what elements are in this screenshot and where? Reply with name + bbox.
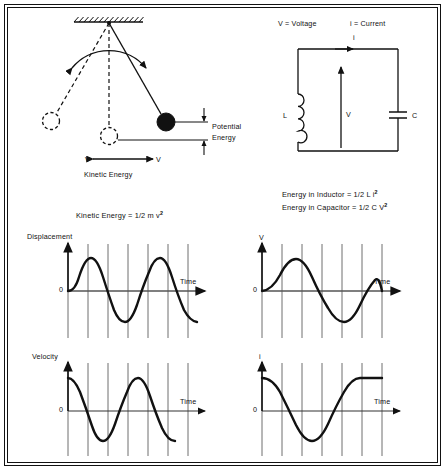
voltage-origin-label: 0 [253,285,257,294]
capacitor-energy-equation: Energy in Capacitor = 1/2 C V2 [282,202,387,212]
legend-current-label: i = Current [350,19,385,28]
capacitor-energy-equation-exponent: 2 [384,202,387,208]
pendulum-bob-left-ghost [43,113,60,130]
pendulum-bob-right-solid [157,113,175,131]
displacement-waveform [68,258,197,322]
current-arrow-label: i [353,33,355,42]
chart-displacement [68,243,205,338]
current-y-axis-label: i [259,352,261,361]
chart-current [262,362,400,456]
displacement-origin-label: 0 [59,285,63,294]
kinetic-energy-equation-text: Kinetic Energy = 1/2 m v [76,211,160,220]
inductor-energy-equation-text: Energy in Inductor = 1/2 L i [282,190,374,199]
pendulum-string-right-solid [109,23,161,114]
velocity-waveform [68,378,175,441]
potential-energy-label-line2: Energy [212,133,236,142]
capacitor-label: C [412,111,417,120]
inductor-energy-equation: Energy in Inductor = 1/2 L i2 [282,189,378,199]
voltage-x-axis-label: Time [374,277,390,286]
velocity-y-axis-label: Velocity [32,352,58,361]
velocity-x-axis-label: Time [180,397,196,406]
inductor-coil-symbol [298,94,307,143]
potential-energy-label-line1: Potential [212,122,241,131]
voltage-y-axis-label: V [259,233,264,242]
pendulum-bob-center-ghost [101,128,118,145]
capacitor-energy-equation-text: Energy in Capacitor = 1/2 C V [282,203,384,212]
pendulum-diagram [43,17,209,159]
voltage-arrow-label: V [346,110,351,119]
current-origin-label: 0 [253,405,257,414]
displacement-y-axis-label: Displacement [27,232,72,241]
figure-root: V V Kinetic Energy Potential Energy Kine… [0,0,447,472]
inductor-label: L [283,111,287,120]
pendulum-string-left-dashed [56,23,109,114]
pendulum-velocity-left-label: V [85,155,90,164]
velocity-origin-label: 0 [59,405,63,414]
inductor-energy-equation-exponent: 2 [374,189,377,195]
chart-voltage [262,243,400,338]
kinetic-energy-equation: Kinetic Energy = 1/2 m v2 [76,210,163,220]
legend-voltage-label: V = Voltage [278,19,317,28]
pendulum-velocity-right-label: V [156,155,161,164]
kinetic-energy-label: Kinetic Energy [84,170,132,179]
displacement-x-axis-label: Time [180,277,196,286]
current-x-axis-label: Time [374,397,390,406]
lc-circuit-diagram [298,49,407,151]
kinetic-energy-equation-exponent: 2 [160,210,163,216]
chart-velocity [68,362,205,456]
